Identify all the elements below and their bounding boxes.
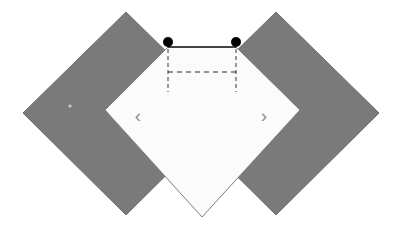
geometric-diagram-canvas: ‹ › — [0, 0, 399, 232]
left-diamond-center-dot — [68, 104, 71, 107]
right-endpoint-dot[interactable] — [231, 37, 241, 47]
left-chevron-icon: ‹ — [135, 105, 141, 126]
right-chevron-icon: › — [261, 105, 267, 126]
figure-root: ‹ › — [0, 0, 399, 232]
left-endpoint-dot[interactable] — [163, 37, 173, 47]
